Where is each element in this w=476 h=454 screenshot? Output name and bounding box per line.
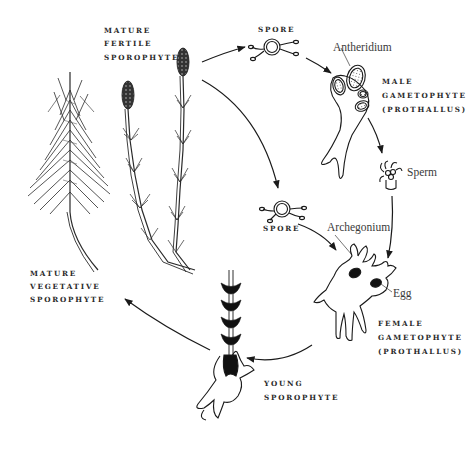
- arrow-spore-to-male: [306, 58, 331, 73]
- arrow-fertile-to-spore: [202, 47, 245, 62]
- label-male-gametophyte: MALE GAMETOPHYTE (PROTHALLUS): [382, 77, 467, 114]
- svg-text:SPOROPHYTE: SPOROPHYTE: [104, 53, 179, 62]
- label-young-sporophyte: YOUNG SPOROPHYTE: [263, 379, 339, 402]
- svg-text:MALE: MALE: [382, 77, 413, 86]
- svg-text:MATURE: MATURE: [104, 26, 151, 35]
- sperm-illustration: [380, 161, 402, 190]
- arrow-female-to-young: [247, 345, 312, 360]
- young-sporophyte-illustration: [197, 270, 254, 420]
- arrow-young-to-vegetative: [125, 299, 210, 350]
- svg-text:GAMETOPHYTE: GAMETOPHYTE: [382, 91, 467, 100]
- label-mature-fertile-sporophyte: MATURE FERTILE SPOROPHYTE: [104, 26, 179, 62]
- label-archegonium: Archegonium: [327, 221, 390, 234]
- label-antheridium: Antheridium: [333, 41, 392, 53]
- svg-text:FEMALE: FEMALE: [378, 319, 423, 328]
- label-spore-mid: SPORE: [263, 224, 300, 233]
- label-mature-vegetative-sporophyte: MATURE VEGETATIVE SPOROPHYTE: [29, 269, 105, 304]
- label-spore-top: SPORE: [258, 25, 295, 34]
- svg-text:(PROTHALLUS): (PROTHALLUS): [382, 105, 467, 114]
- arrow-male-to-sperm: [368, 118, 382, 153]
- label-female-gametophyte: FEMALE GAMETOPHYTE (PROTHALLUS): [378, 319, 463, 356]
- life-cycle-diagram: MATURE FERTILE SPOROPHYTE SPORE Antherid…: [0, 0, 476, 454]
- male-gametophyte-illustration: [322, 48, 371, 179]
- svg-text:(PROTHALLUS): (PROTHALLUS): [378, 347, 463, 356]
- svg-text:YOUNG: YOUNG: [263, 379, 303, 388]
- arrow-fertile-to-spore-mid: [202, 80, 278, 188]
- svg-text:FERTILE: FERTILE: [104, 39, 152, 48]
- spore-top-illustration: [249, 39, 299, 61]
- svg-text:VEGETATIVE: VEGETATIVE: [29, 282, 101, 291]
- diagram-canvas: MATURE FERTILE SPOROPHYTE SPORE Antherid…: [0, 0, 476, 454]
- mature-fertile-sporophyte-illustration: [122, 48, 195, 274]
- spore-mid-illustration: [260, 201, 307, 223]
- svg-text:SPOROPHYTE: SPOROPHYTE: [264, 393, 339, 402]
- svg-text:MATURE: MATURE: [30, 269, 77, 278]
- mature-vegetative-sporophyte-illustration: [28, 72, 110, 272]
- label-egg: Egg: [393, 287, 412, 300]
- svg-text:GAMETOPHYTE: GAMETOPHYTE: [378, 333, 463, 342]
- svg-text:SPOROPHYTE: SPOROPHYTE: [30, 295, 105, 304]
- label-sperm: Sperm: [407, 166, 437, 179]
